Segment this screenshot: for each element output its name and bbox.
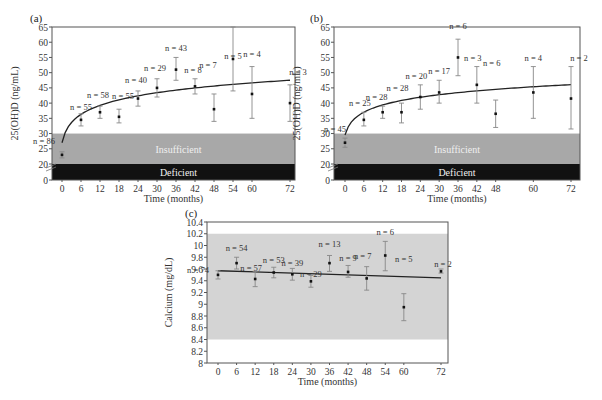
x-tick-label: 18 (114, 184, 124, 194)
chart-panel-c: 88.28.48.68.899.29.49.69.81010.210.40612… (163, 207, 452, 388)
x-tick-label: 24 (416, 184, 426, 194)
y-tick-label: 8.2 (191, 347, 203, 357)
y-tick-label: 0 (325, 176, 330, 186)
y-tick-label: 45 (321, 83, 331, 93)
x-tick-label: 60 (399, 367, 409, 377)
x-tick-label: 0 (60, 184, 65, 194)
x-tick-label: 48 (491, 184, 501, 194)
y-tick-label: 8.6 (191, 323, 203, 333)
n-label: n = 2 (434, 259, 452, 269)
n-label: n = 4 (243, 49, 261, 59)
y-tick-label: 35 (321, 114, 331, 124)
y-tick-label: 0 (43, 176, 48, 186)
x-tick-label: 60 (247, 184, 257, 194)
n-label: n = 28 (366, 92, 388, 102)
y-tick-label: 45 (39, 83, 49, 93)
zone-label: Insufficient (156, 144, 202, 155)
n-label: n = 29 (144, 63, 166, 73)
y-tick-label: 35 (39, 114, 49, 124)
x-tick-label: 60 (529, 184, 539, 194)
data-point: n = 6 (449, 21, 467, 76)
zone-label: Deficient (438, 167, 475, 178)
data-point: n = 4 (525, 53, 543, 119)
n-label: n = 28 (387, 83, 409, 93)
chart-panel-a: InsufficientDeficient0202530354045505560… (9, 12, 307, 205)
y-tick-label: 55 (321, 53, 331, 63)
zone-label: Deficient (160, 167, 197, 178)
data-point: n = 6 (483, 58, 501, 127)
n-label: n = 55 (70, 102, 92, 112)
n-label: n = 17 (428, 66, 450, 76)
x-axis-title: Time (months) (144, 193, 203, 205)
x-tick-label: 24 (133, 184, 143, 194)
y-tick-label: 65 (39, 23, 49, 33)
y-tick-label: 8 (198, 359, 203, 369)
x-tick-label: 72 (566, 184, 576, 194)
y-tick-label: 40 (39, 99, 49, 109)
y-tick-label: 40 (321, 99, 331, 109)
n-label: n = 74 (187, 265, 210, 275)
n-label: n = 58 (87, 90, 109, 100)
data-point: n = 20 (405, 71, 427, 109)
y-tick-label: 60 (321, 38, 331, 48)
y-tick-label: 8.8 (191, 312, 203, 322)
n-label: n = 6 (376, 227, 394, 237)
chart-panel-b: InsufficientDeficient0202530354045505560… (291, 12, 588, 205)
data-point: n = 3 (464, 53, 482, 104)
x-tick-label: 6 (234, 367, 239, 377)
y-tick-label: 55 (39, 53, 49, 63)
data-point: n = 55 (112, 91, 134, 123)
n-label: n = 7 (354, 251, 372, 261)
x-tick-label: 54 (381, 367, 391, 377)
data-point: n = 7 (199, 60, 217, 121)
n-label: n = 5 (395, 254, 413, 264)
n-label: n = 45 (324, 124, 346, 134)
x-tick-label: 12 (378, 184, 388, 194)
x-tick-label: 24 (288, 367, 298, 377)
y-tick-label: 10.4 (186, 218, 203, 228)
x-tick-label: 12 (250, 367, 260, 377)
x-tick-label: 6 (79, 184, 84, 194)
x-tick-label: 18 (397, 184, 407, 194)
x-axis-title: Time (months) (427, 193, 486, 205)
y-tick-label: 65 (321, 23, 331, 33)
data-point: n = 2 (569, 53, 588, 129)
data-point: n = 5 (224, 27, 242, 91)
n-label: n = 40 (125, 75, 147, 85)
n-label: n = 39 (281, 258, 303, 268)
x-tick-label: 12 (95, 184, 105, 194)
x-tick-label: 48 (362, 367, 372, 377)
y-axis-title: 25(OH)D (ng/mL) (9, 66, 21, 140)
n-label: n = 29 (300, 269, 322, 279)
n-label: n = 5 (224, 51, 242, 61)
n-label: n = 2 (570, 53, 588, 63)
y-axis-title: Calcium (mg/dL) (163, 258, 175, 328)
x-tick-label: 18 (269, 367, 279, 377)
x-tick-label: 54 (228, 184, 238, 194)
x-tick-label: 0 (216, 367, 221, 377)
n-label: n = 20 (405, 71, 427, 81)
panel-label: (b) (310, 12, 323, 25)
x-tick-label: 72 (285, 184, 295, 194)
y-tick-label: 8.4 (191, 335, 203, 345)
x-tick-label: 72 (436, 367, 446, 377)
y-tick-label: 25 (321, 144, 331, 154)
n-label: n = 55 (112, 91, 134, 101)
y-tick-label: 60 (39, 38, 49, 48)
n-label: n = 43 (165, 43, 187, 53)
x-tick-label: 48 (209, 184, 219, 194)
n-label: n = 6 (449, 21, 467, 31)
n-label: n = 54 (226, 243, 249, 253)
y-tick-label: 9.8 (191, 253, 203, 263)
y-axis-title: 25(OH)D (ng/mL) (291, 66, 303, 140)
n-label: n = 3 (464, 53, 482, 63)
y-tick-label: 10 (194, 241, 204, 251)
zone-label: Insufficient (434, 144, 480, 155)
x-tick-label: 0 (343, 184, 348, 194)
n-label: n = 4 (525, 53, 543, 63)
data-point: n = 55 (70, 102, 92, 126)
panel-label: (a) (30, 12, 43, 25)
y-tick-label: 10.2 (186, 229, 203, 239)
figure: InsufficientDeficient0202530354045505560… (0, 0, 602, 400)
n-label: n = 7 (199, 60, 217, 70)
